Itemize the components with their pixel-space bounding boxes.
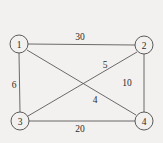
graph-canvas: 1 2 3 4 30 6 10 20 5 4 bbox=[0, 0, 163, 143]
edge-3-2 bbox=[28, 52, 137, 116]
node-3-label: 3 bbox=[18, 117, 23, 127]
node-1-label: 1 bbox=[17, 40, 22, 50]
graph-diagram: 1 2 3 4 30 6 10 20 5 4 bbox=[0, 0, 163, 143]
edge-weight-1-2: 30 bbox=[75, 32, 85, 42]
edge-1-3 bbox=[19, 53, 20, 112]
edge-weight-3-4: 20 bbox=[75, 124, 85, 134]
edge-1-2 bbox=[28, 44, 135, 45]
edge-weight-2-4: 10 bbox=[122, 78, 132, 88]
node-2-label: 2 bbox=[142, 41, 147, 51]
edge-weight-1-4: 4 bbox=[93, 95, 98, 105]
node-4-label: 4 bbox=[142, 117, 147, 127]
edge-1-4 bbox=[27, 50, 136, 115]
edge-weight-1-3: 6 bbox=[12, 80, 17, 90]
edge-weight-3-2: 5 bbox=[103, 60, 108, 70]
